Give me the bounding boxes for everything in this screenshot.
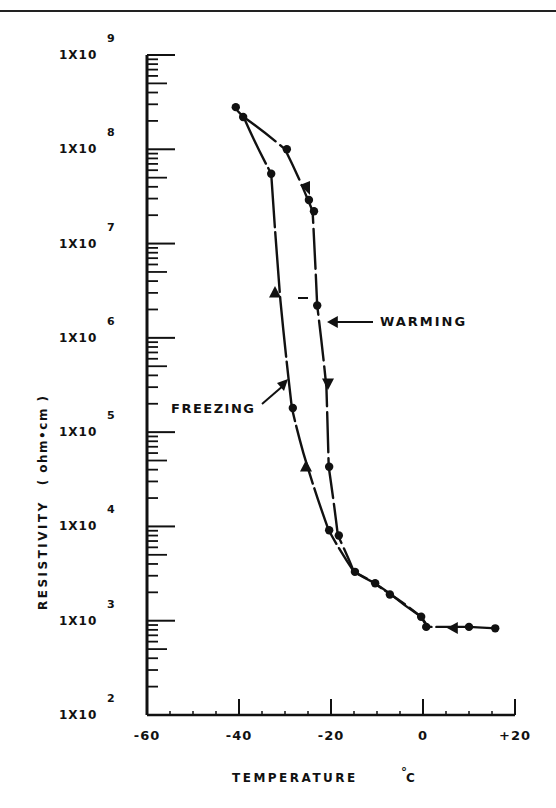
y-axis-ticks: 1X1091X1081X1071X1061X1051X1041X1031X102 [59,32,175,722]
x-tick-label: -40 [226,728,253,743]
warming-label: WARMING [380,314,467,329]
data-point [305,196,313,204]
freezing-direction-arrow-icon [300,460,312,472]
x-axis-unit: C [406,771,415,785]
y-axis-title-text: RESISTIVITY ( ohm•cm ) [36,394,50,610]
y-tick-exponent: 8 [107,126,115,139]
data-curves [234,107,496,628]
axes [147,55,515,715]
data-point [465,623,473,631]
y-axis-title: RESISTIVITY ( ohm•cm ) [36,394,50,610]
data-point [386,590,394,598]
y-tick-label: 1X10 [59,425,97,439]
freezing-curve [234,107,496,628]
y-tick-exponent: 5 [107,409,115,422]
y-tick-label: 1X10 [59,708,97,722]
warming-pointer-arrow-icon [327,316,338,328]
y-tick-exponent: 9 [107,32,115,45]
warming-direction-arrow-icon [322,378,334,390]
data-point [335,531,343,539]
x-axis-title: TEMPERATURE ° C [232,765,415,785]
warming-curve [244,117,428,627]
y-tick-label: 1X10 [59,614,97,628]
y-tick-exponent: 4 [107,503,115,516]
data-point [371,579,379,587]
data-point [325,463,333,471]
data-point [283,145,291,153]
x-axis-title-text: TEMPERATURE [232,771,358,785]
y-tick-exponent: 6 [107,315,115,328]
x-axis-ticks: -60-40-200+20 [134,699,531,743]
freezing-label: FREEZING [171,401,255,416]
y-tick-label: 1X10 [59,48,97,62]
x-tick-label: 0 [418,728,428,743]
data-point [325,526,333,534]
y-tick-label: 1X10 [59,237,97,251]
data-point [239,113,247,121]
y-tick-label: 1X10 [59,142,97,156]
y-tick-exponent: 3 [107,598,115,611]
x-tick-label: -60 [134,728,161,743]
y-tick-exponent: 2 [107,692,115,705]
x-tick-label: +20 [499,728,531,743]
data-point [310,207,318,215]
data-point [313,301,321,309]
freezing-direction-arrow-icon [447,622,458,634]
data-point [289,404,297,412]
freezing-pointer-line [262,385,284,404]
resistivity-temperature-chart: 1X1091X1081X1071X1061X1051X1041X1031X102… [0,0,556,808]
data-point [491,624,499,632]
data-point [232,103,240,111]
data-point [422,623,430,631]
y-tick-label: 1X10 [59,519,97,533]
data-point [417,613,425,621]
y-tick-label: 1X10 [59,331,97,345]
data-point [267,170,275,178]
y-axis-title-main: RESISTIVITY [36,500,50,610]
y-axis-title-unit: ( ohm•cm ) [36,394,50,485]
y-tick-exponent: 7 [107,221,115,234]
x-tick-label: -20 [318,728,345,743]
data-point [351,568,359,576]
